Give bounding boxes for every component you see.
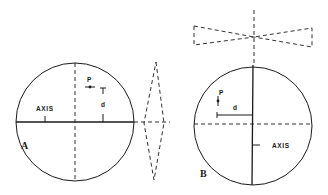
panel-label-b: B <box>200 168 207 179</box>
panel-b: AXIS P d B <box>194 10 312 185</box>
panel-label-a: A <box>21 140 29 151</box>
panel-a: AXIS P d A <box>16 62 170 182</box>
axis-line-b <box>252 65 253 185</box>
axis-label-a: AXIS <box>36 105 54 112</box>
point-p-label-b: P <box>219 89 224 96</box>
diamond-projection-a <box>144 62 164 180</box>
bowtie-projection-b <box>194 26 312 47</box>
distance-label-a: d <box>101 101 106 108</box>
distance-label-b: d <box>233 104 238 111</box>
diagram-canvas: AXIS P d A AXIS P d B <box>0 0 328 195</box>
axis-label-b: AXIS <box>272 142 290 149</box>
point-p-label-a: P <box>87 76 92 83</box>
